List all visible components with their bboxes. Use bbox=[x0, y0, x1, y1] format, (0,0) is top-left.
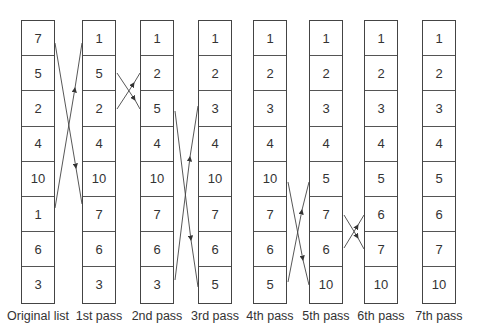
cell: 3 bbox=[199, 91, 231, 126]
column-pass-7: 1 2 3 4 5 6 7 10 bbox=[422, 20, 456, 304]
column-label: 7th pass bbox=[415, 309, 462, 323]
cell: 4 bbox=[254, 127, 286, 162]
cell: 1 bbox=[83, 21, 115, 56]
cell: 5 bbox=[423, 162, 455, 197]
cell: 4 bbox=[365, 127, 397, 162]
cell: 6 bbox=[365, 197, 397, 232]
cell: 4 bbox=[423, 127, 455, 162]
cell: 10 bbox=[254, 162, 286, 197]
cell: 2 bbox=[254, 56, 286, 91]
cell: 3 bbox=[83, 267, 115, 302]
cell: 3 bbox=[141, 267, 173, 302]
swap-arrow bbox=[55, 88, 75, 208]
cell: 7 bbox=[22, 21, 54, 56]
cell: 4 bbox=[83, 127, 115, 162]
cell: 7 bbox=[141, 197, 173, 232]
column-pass-1: 1 5 2 4 10 7 6 3 bbox=[82, 20, 116, 304]
column-pass-6: 1 2 3 4 5 6 7 10 bbox=[364, 20, 398, 304]
column-label: Original list bbox=[7, 309, 69, 323]
cell: 7 bbox=[423, 232, 455, 267]
column-pass-4: 1 2 3 4 10 7 6 5 bbox=[253, 20, 287, 304]
cell: 2 bbox=[141, 56, 173, 91]
cell: 1 bbox=[310, 21, 342, 56]
cell: 2 bbox=[423, 56, 455, 91]
cell: 10 bbox=[22, 162, 54, 197]
cell: 6 bbox=[310, 232, 342, 267]
cell: 3 bbox=[22, 267, 54, 302]
column-label: 6th pass bbox=[357, 309, 404, 323]
cell: 2 bbox=[22, 91, 54, 126]
cell: 2 bbox=[199, 56, 231, 91]
column-label: 1st pass bbox=[76, 309, 123, 323]
cell: 1 bbox=[22, 197, 54, 232]
column-pass-5: 1 2 3 4 5 7 6 10 bbox=[309, 20, 343, 304]
cell: 2 bbox=[83, 91, 115, 126]
cell: 7 bbox=[365, 232, 397, 267]
column-label: 4th pass bbox=[246, 309, 293, 323]
cell: 4 bbox=[310, 127, 342, 162]
cell: 10 bbox=[199, 162, 231, 197]
cell: 4 bbox=[141, 127, 173, 162]
cell: 6 bbox=[199, 232, 231, 267]
cell: 6 bbox=[254, 232, 286, 267]
cell: 5 bbox=[83, 56, 115, 91]
cell: 4 bbox=[22, 127, 54, 162]
column-original: 7 5 2 4 10 1 6 3 bbox=[21, 20, 55, 304]
cell: 7 bbox=[83, 197, 115, 232]
cell: 5 bbox=[365, 162, 397, 197]
cell: 3 bbox=[254, 91, 286, 126]
swap-arrows bbox=[0, 0, 479, 331]
swap-arrow bbox=[55, 43, 76, 168]
column-label: 2nd pass bbox=[132, 309, 183, 323]
cell: 6 bbox=[141, 232, 173, 267]
column-pass-2: 1 2 5 4 10 7 6 3 bbox=[140, 20, 174, 304]
cell: 10 bbox=[310, 267, 342, 302]
cell: 1 bbox=[199, 21, 231, 56]
cell: 5 bbox=[310, 162, 342, 197]
cell: 10 bbox=[365, 267, 397, 302]
cell: 7 bbox=[310, 197, 342, 232]
cell: 6 bbox=[22, 232, 54, 267]
cell: 2 bbox=[365, 56, 397, 91]
cell: 7 bbox=[254, 197, 286, 232]
cell: 1 bbox=[141, 21, 173, 56]
cell: 3 bbox=[310, 91, 342, 126]
cell: 5 bbox=[199, 267, 231, 302]
cell: 3 bbox=[423, 91, 455, 126]
column-pass-3: 1 2 3 4 10 7 6 5 bbox=[198, 20, 232, 304]
cell: 2 bbox=[310, 56, 342, 91]
cell: 1 bbox=[254, 21, 286, 56]
column-label: 3rd pass bbox=[191, 309, 239, 323]
cell: 6 bbox=[83, 232, 115, 267]
cell: 7 bbox=[199, 197, 231, 232]
cell: 10 bbox=[423, 267, 455, 302]
cell: 6 bbox=[423, 197, 455, 232]
cell: 3 bbox=[365, 91, 397, 126]
cell: 5 bbox=[254, 267, 286, 302]
column-label: 5th pass bbox=[302, 309, 349, 323]
cell: 5 bbox=[22, 56, 54, 91]
cell: 4 bbox=[199, 127, 231, 162]
cell: 1 bbox=[423, 21, 455, 56]
cell: 5 bbox=[141, 91, 173, 126]
cell: 10 bbox=[83, 162, 115, 197]
cell: 1 bbox=[365, 21, 397, 56]
cell: 10 bbox=[141, 162, 173, 197]
